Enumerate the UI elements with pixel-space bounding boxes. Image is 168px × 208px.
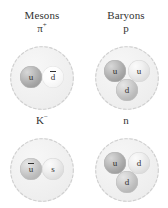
quark-label: u bbox=[20, 66, 42, 88]
particle-symbol: K bbox=[36, 114, 44, 126]
containment-shell-proton: u u d bbox=[95, 46, 159, 110]
particle-k-minus: K− u s bbox=[0, 114, 84, 208]
quark-sphere: d bbox=[42, 66, 64, 88]
particle-charge: − bbox=[44, 113, 48, 121]
quark-sphere: u bbox=[20, 66, 42, 88]
particle-symbol: n bbox=[123, 114, 129, 126]
quark-label: u bbox=[20, 158, 42, 180]
column-header-baryons: Baryons bbox=[84, 9, 168, 21]
particle-symbol: p bbox=[123, 22, 129, 34]
particle-pi-plus: π+ u d bbox=[0, 22, 84, 126]
quark-label: d bbox=[42, 66, 64, 88]
quark-label: s bbox=[42, 158, 64, 180]
particle-label-pi-plus: π+ bbox=[0, 22, 84, 35]
quark-label: d bbox=[116, 79, 138, 101]
quark-sphere: u bbox=[20, 158, 42, 180]
particle-label-proton: p bbox=[84, 22, 168, 35]
quark-label: d bbox=[116, 171, 138, 193]
particle-label-k-minus: K− bbox=[0, 114, 84, 127]
containment-shell-k-minus: u s bbox=[10, 138, 74, 202]
quark-sphere: d bbox=[116, 171, 138, 193]
quark-composition-figure: Mesons Baryons π+ u d p bbox=[0, 0, 168, 208]
quark-sphere: d bbox=[116, 79, 138, 101]
column-header-mesons: Mesons bbox=[0, 9, 84, 21]
particle-label-neutron: n bbox=[84, 114, 168, 127]
particle-proton: p u u d bbox=[84, 22, 168, 126]
particle-charge: + bbox=[43, 21, 47, 29]
containment-shell-pi-plus: u d bbox=[10, 46, 74, 110]
quark-sphere: s bbox=[42, 158, 64, 180]
quark-label-text: u bbox=[29, 164, 34, 174]
quark-label-text: d bbox=[51, 72, 56, 82]
particle-neutron: n u d d bbox=[84, 114, 168, 208]
containment-shell-neutron: u d d bbox=[95, 138, 159, 202]
